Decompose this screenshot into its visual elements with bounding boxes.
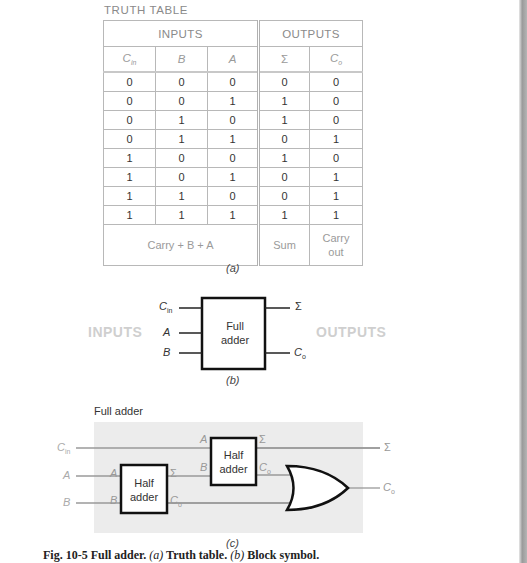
block-input-cin: Cin (159, 300, 172, 314)
logic-input-cin: Cin (57, 441, 70, 455)
ha1-pin-b: B (110, 494, 117, 506)
ha1-pin-sum: Σ (170, 467, 177, 479)
diagram-graphics (0, 0, 527, 563)
ha2-pin-co: Co (259, 461, 271, 475)
block-output-sum: Σ (295, 300, 302, 312)
full-adder-label: Full adder (213, 319, 257, 347)
block-output-co: Co (294, 346, 306, 360)
ha1-pin-co: Co (170, 494, 182, 508)
block-input-b: B (163, 346, 170, 358)
logic-input-a: A (63, 469, 70, 481)
ha2-pin-a: A (200, 433, 207, 445)
ha1-pin-a: A (110, 467, 117, 479)
block-input-a: A (163, 326, 170, 338)
ha1-label: Half adder (121, 476, 167, 504)
logic-diagram-title: Full adder (94, 405, 143, 417)
logic-output-co: Co (383, 481, 395, 495)
ha2-pin-b: B (200, 461, 207, 473)
logic-input-b: B (63, 496, 70, 508)
figure-caption: Fig. 10-5 Full adder. (a) Truth table. (… (43, 548, 319, 563)
caption-b: (b) (226, 374, 239, 386)
ha2-label: Half adder (211, 448, 256, 476)
logic-output-sum: Σ (384, 441, 391, 453)
ha2-pin-sum: Σ (259, 433, 266, 445)
